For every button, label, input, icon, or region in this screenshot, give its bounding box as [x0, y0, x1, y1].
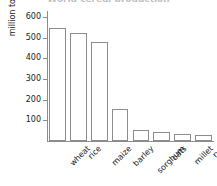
x-axis-label-oats: oats [170, 144, 188, 162]
bar-chart: World cereal production million tonnes 1… [0, 0, 217, 186]
y-axis-tick-label: 400 [11, 54, 41, 62]
bar-rye [195, 135, 212, 141]
bar-wheat [49, 28, 66, 141]
x-axis-line [47, 141, 214, 142]
y-axis-tick-label: 200 [11, 96, 41, 104]
bar-millet [174, 134, 191, 141]
bar-rice [70, 33, 87, 141]
y-axis-tick-label: 300 [11, 75, 41, 83]
y-axis-tick-label: 100 [11, 116, 41, 124]
bar-oats [153, 132, 170, 141]
plot-area [47, 11, 214, 141]
bar-maize [91, 42, 108, 141]
y-axis-tick-label: 500 [11, 34, 41, 42]
bar-sorghum [133, 130, 150, 141]
x-axis-label-barley: barley [131, 144, 155, 168]
x-axis-label-maize: maize [110, 144, 133, 167]
chart-title: World cereal production [0, 0, 217, 2]
bar-barley [112, 109, 129, 141]
y-axis-tick-label: 600 [11, 13, 41, 21]
x-axis-label-rye: rye [211, 144, 217, 160]
